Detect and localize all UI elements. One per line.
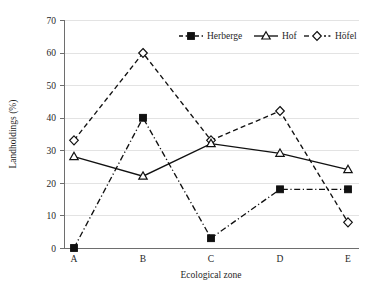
x-tick-label-c: C (208, 254, 214, 264)
y-tick-label-40: 40 (47, 113, 57, 123)
x-axis-title: Ecological zone (181, 270, 242, 280)
y-tick-labels: 0 10 20 30 40 50 60 70 (47, 16, 57, 254)
plot-area (64, 20, 359, 248)
x-tick-label-b: B (140, 254, 146, 264)
y-tick-label-20: 20 (47, 179, 57, 189)
x-tick-label-e: E (345, 254, 351, 264)
data-point-herberge-c (208, 235, 215, 242)
line-chart: 0 10 20 30 40 50 60 70 A B C D E Ecologi… (0, 0, 375, 285)
data-point-herberge-a (71, 245, 78, 252)
legend-label-hofel: Höfel (335, 31, 357, 41)
data-point-herberge-b (140, 114, 147, 121)
x-tick-labels: A B C D E (71, 254, 352, 264)
legend-label-hof: Hof (282, 31, 298, 41)
x-tick-label-a: A (71, 254, 78, 264)
y-tick-label-50: 50 (47, 81, 57, 91)
data-point-herberge-d (277, 186, 284, 193)
legend-label-herberge: Herberge (207, 31, 242, 41)
y-tick-marks (60, 21, 64, 249)
x-tick-label-d: D (277, 254, 284, 264)
data-point-herberge-e (345, 186, 352, 193)
legend-item-herberge[interactable]: Herberge (179, 31, 242, 41)
y-tick-label-60: 60 (47, 48, 57, 58)
y-axis-title: Landholdings (%) (8, 100, 19, 169)
y-tick-label-0: 0 (51, 244, 56, 254)
legend-marker-filled-square-icon (188, 33, 195, 40)
chart-figure: 0 10 20 30 40 50 60 70 A B C D E Ecologi… (0, 0, 375, 285)
y-tick-label-30: 30 (47, 146, 57, 156)
y-tick-label-10: 10 (47, 211, 57, 221)
y-tick-label-70: 70 (47, 16, 57, 26)
